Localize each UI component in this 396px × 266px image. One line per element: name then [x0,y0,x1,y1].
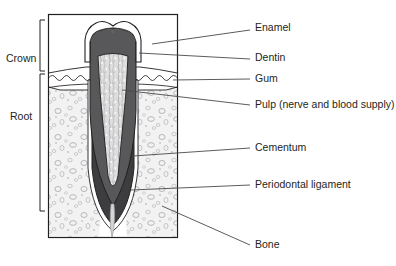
callout-label-periodontal-ligament: Periodontal ligament [255,179,351,190]
bracket-label-crown: Crown [6,53,36,64]
diagram-canvas [0,0,396,266]
leader-gum [173,79,250,80]
callout-label-cementum: Cementum [255,142,306,153]
tooth-anatomy-diagram: Crown Root Enamel Dentin Gum Pulp (nerve… [0,0,396,266]
callout-label-enamel: Enamel [255,22,291,33]
root-bracket [40,74,45,211]
callout-label-gum: Gum [255,73,278,84]
bracket-label-root: Root [10,111,32,122]
callout-label-bone: Bone [255,239,280,250]
callout-label-pulp: Pulp (nerve and blood supply) [255,99,395,110]
callout-label-dentin: Dentin [255,52,285,63]
crown-bracket [40,20,45,71]
